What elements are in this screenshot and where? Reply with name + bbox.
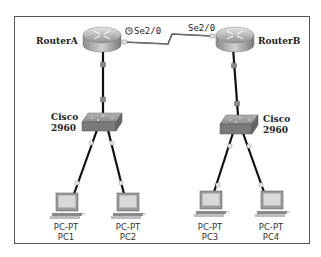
router-b-interface-label: Se2/0 <box>188 23 215 33</box>
router-a-interface-label: Se2/0 <box>134 26 161 36</box>
pc-1[interactable] <box>50 193 85 219</box>
pc4-name-label: PC4 <box>251 232 291 242</box>
switch-a-label-model: Cisco <box>51 112 78 122</box>
pc3-type-label: PC-PT <box>190 222 230 232</box>
router-b[interactable] <box>216 27 254 52</box>
switch-a-label-number: 2960 <box>51 123 76 133</box>
switch-b-label-model: Cisco <box>263 114 290 124</box>
pc1-name-label: PC1 <box>46 232 86 242</box>
pc4-type-label: PC-PT <box>251 222 291 232</box>
pc2-type-label: PC-PT <box>108 222 148 232</box>
router-a-label: RouterA <box>36 36 78 46</box>
pc-4[interactable] <box>255 191 290 217</box>
router-a[interactable] <box>83 27 121 52</box>
pc1-type-label: PC-PT <box>46 222 86 232</box>
link-status-indicators-pc <box>75 141 263 187</box>
switch-b[interactable] <box>220 115 258 134</box>
pc-3[interactable] <box>194 191 229 217</box>
link-status-indicators <box>101 62 240 106</box>
clock-icon <box>126 28 133 35</box>
pc2-name-label: PC2 <box>108 232 148 242</box>
pc-2[interactable] <box>111 193 146 219</box>
switch-a[interactable] <box>82 113 122 131</box>
switch-b-label-number: 2960 <box>263 125 288 135</box>
router-b-label: RouterB <box>258 36 300 46</box>
pc3-name-label: PC3 <box>190 232 230 242</box>
